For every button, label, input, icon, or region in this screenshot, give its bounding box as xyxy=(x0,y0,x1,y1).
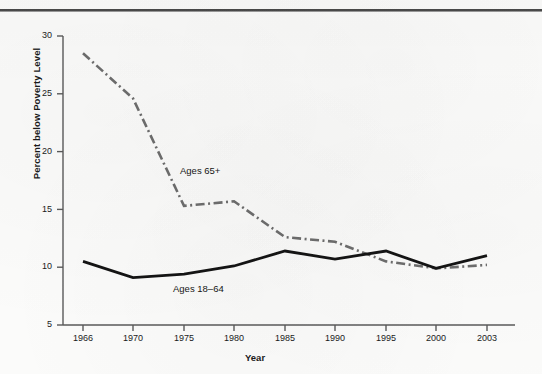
series-line-ages-18-64 xyxy=(83,251,487,278)
series-label-ages-18-64: Ages 18–64 xyxy=(173,283,224,294)
series-line-ages-65-plus xyxy=(83,53,487,268)
x-tick-label-1995: 1995 xyxy=(366,333,406,343)
x-tick-label-1985: 1985 xyxy=(265,333,305,343)
x-tick-label-2003: 2003 xyxy=(467,333,507,343)
x-tick-label-1990: 1990 xyxy=(315,333,355,343)
series-label-ages-65-plus: Ages 65+ xyxy=(180,165,220,176)
x-tick-label-1975: 1975 xyxy=(164,333,204,343)
figure-page: 30 25 20 15 10 5 1966 1970 1975 1980 198… xyxy=(0,0,542,374)
poverty-line-chart xyxy=(0,0,542,374)
x-tick-label-1970: 1970 xyxy=(113,333,153,343)
y-tick-label-10: 10 xyxy=(24,261,52,271)
x-tick-marks xyxy=(83,325,487,331)
y-axis-title: Percent below Poverty Level xyxy=(31,34,42,194)
y-tick-label-15: 15 xyxy=(24,204,52,214)
x-axis-title: Year xyxy=(245,352,265,363)
x-tick-label-1980: 1980 xyxy=(214,333,254,343)
x-tick-label-1966: 1966 xyxy=(63,333,103,343)
x-tick-label-2000: 2000 xyxy=(416,333,456,343)
y-tick-label-5: 5 xyxy=(24,319,52,329)
y-tick-marks xyxy=(57,36,63,325)
